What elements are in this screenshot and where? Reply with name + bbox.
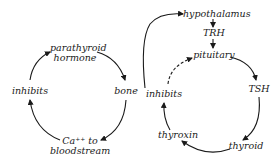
node-parathyroid-hormone: parathyroid hormone — [50, 43, 100, 63]
node-label: bloodstream — [50, 146, 110, 156]
node-inhibits: inhibits — [10, 86, 50, 96]
arrow-pituitary-to-tsh — [230, 57, 256, 80]
node-label: TRH — [203, 28, 223, 38]
arrow-tsh-to-thyroid — [243, 97, 259, 140]
node-label: bone — [112, 86, 140, 96]
node-thyroxin: thyroxin — [158, 130, 198, 140]
arrow-inhibits-to-parathyroid — [30, 52, 50, 80]
node-thyroid: thyroid — [226, 141, 266, 151]
node-hypothalamus: hypothalamus — [183, 9, 247, 19]
node-label: TSH — [248, 84, 270, 94]
node-label: pituitary — [192, 50, 236, 60]
node-label: hypothalamus — [183, 9, 247, 19]
parathyroid-cycle-arrows — [30, 52, 126, 140]
node-bone: bone — [112, 86, 140, 96]
arrow-ca-to-inhibits — [30, 100, 60, 140]
node-trh: TRH — [203, 28, 223, 38]
diagram-canvas — [0, 0, 278, 162]
arrow-parathyroid-to-bone — [97, 52, 125, 80]
node-pituitary: pituitary — [192, 50, 236, 60]
arrow-inhibits-to-hypothalamus — [143, 14, 183, 88]
node-tsh: TSH — [248, 84, 270, 94]
arrow-thyroxin-to-inhibits — [164, 103, 170, 130]
node-inhibits-thyroid: inhibits — [144, 89, 184, 99]
arrow-thyroid-to-thyroxin — [182, 141, 230, 152]
node-label: inhibits — [144, 89, 184, 99]
arrow-bone-to-ca — [101, 100, 126, 140]
arrow-inhibits-to-pituitary-dashed — [168, 58, 192, 84]
node-ca-to-bloodstream: Ca⁺⁺ to bloodstream — [50, 136, 110, 156]
node-label: inhibits — [10, 86, 50, 96]
node-label: hormone — [50, 53, 100, 63]
node-label: thyroxin — [158, 130, 198, 140]
node-label: thyroid — [226, 141, 266, 151]
